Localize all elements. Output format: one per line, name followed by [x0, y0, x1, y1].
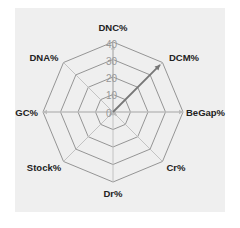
axis-label-dnc: DNC% [98, 22, 128, 33]
tick-label-20: 20 [106, 73, 118, 84]
axis-label-dr: Dr% [103, 188, 123, 199]
tick-label-10: 10 [106, 90, 118, 101]
axis-label-dcm: DCM% [169, 52, 200, 63]
arrow-dcm [113, 65, 160, 112]
tick-label-30: 30 [106, 56, 118, 67]
axis-label-gc: GC% [15, 107, 38, 118]
axis-label-dna: DNA% [29, 52, 59, 63]
tick-label-0: 0 [106, 108, 112, 119]
axis-label-stock: Stock% [27, 162, 62, 173]
radar-chart: 40 30 20 10 0 DNC% DCM% BeGap% Cr% Dr% S… [0, 0, 240, 228]
axis-label-cr: Cr% [166, 162, 186, 173]
tick-label-40: 40 [106, 39, 118, 50]
axis-label-begap: BeGap% [186, 107, 226, 118]
